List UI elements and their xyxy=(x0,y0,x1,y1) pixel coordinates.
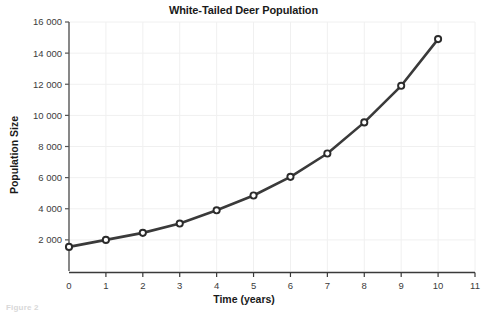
y-tick-label: 2 000 xyxy=(38,234,62,245)
x-axis-title: Time (years) xyxy=(213,293,275,305)
data-point-marker xyxy=(287,174,293,180)
data-point-marker xyxy=(140,230,146,236)
data-point-marker xyxy=(66,244,72,250)
chart-figure: White-Tailed Deer Population 2 0004 0006… xyxy=(0,0,487,316)
x-tick-label: 10 xyxy=(433,280,444,291)
x-tick-label: 2 xyxy=(140,280,145,291)
gridlines-group xyxy=(69,22,475,271)
y-tick-label: 16 000 xyxy=(33,16,62,27)
data-point-marker xyxy=(250,192,256,198)
data-point-marker xyxy=(398,83,404,89)
x-tick-label: 5 xyxy=(251,280,256,291)
x-tick-label: 11 xyxy=(470,280,480,291)
y-tick-label: 8 000 xyxy=(38,141,62,152)
data-point-marker xyxy=(177,220,183,226)
x-tick-label: 0 xyxy=(66,280,71,291)
y-tick-label: 4 000 xyxy=(38,203,62,214)
line-chart-plot: 2 0004 0006 0008 00010 00012 00014 00016… xyxy=(0,0,487,316)
tick-labels-group: 2 0004 0006 0008 00010 00012 00014 00016… xyxy=(33,16,480,291)
data-point-marker xyxy=(435,36,441,42)
x-tick-label: 1 xyxy=(103,280,108,291)
x-tick-label: 7 xyxy=(325,280,330,291)
y-axis-title: Population Size xyxy=(8,116,20,194)
x-tick-label: 4 xyxy=(214,280,219,291)
data-point-marker xyxy=(214,207,220,213)
y-tick-label: 12 000 xyxy=(33,79,62,90)
y-tick-label: 10 000 xyxy=(33,110,62,121)
x-tick-label: 9 xyxy=(399,280,404,291)
y-tick-label: 14 000 xyxy=(33,48,62,59)
x-tick-label: 3 xyxy=(177,280,182,291)
data-point-marker xyxy=(103,237,109,243)
tick-marks-group xyxy=(65,22,475,277)
figure-caption: Figure 2 xyxy=(6,303,39,312)
x-tick-label: 6 xyxy=(288,280,293,291)
y-tick-label: 6 000 xyxy=(38,172,62,183)
data-point-marker xyxy=(324,150,330,156)
x-tick-label: 8 xyxy=(362,280,367,291)
data-point-marker xyxy=(361,119,367,125)
